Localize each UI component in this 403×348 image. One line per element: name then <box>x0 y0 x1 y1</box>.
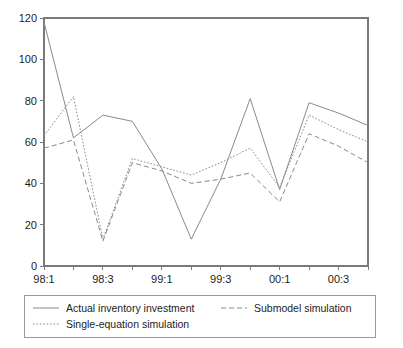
y-tick-label: 100 <box>19 53 37 65</box>
y-tick-label: 120 <box>19 12 37 24</box>
x-tick-label: 00:1 <box>269 273 290 285</box>
legend-label-single-equation: Single-equation simulation <box>66 318 189 330</box>
chart-legend: Actual inventory investment Submodel sim… <box>24 295 376 338</box>
legend-swatch-solid-icon <box>33 303 59 313</box>
inventory-investment-figure: 02040608010012098:198:399:199:300:100:3 … <box>0 0 403 348</box>
x-tick-label: 98:3 <box>92 273 113 285</box>
x-tick-label: 99:3 <box>210 273 231 285</box>
x-tick-label: 99:1 <box>151 273 172 285</box>
y-tick-label: 60 <box>25 136 37 148</box>
legend-entries: Actual inventory investment Submodel sim… <box>25 296 375 337</box>
legend-item-single-equation: Single-equation simulation <box>33 318 189 330</box>
y-tick-label: 40 <box>25 177 37 189</box>
y-tick-label: 80 <box>25 95 37 107</box>
chart-plot-area: 02040608010012098:198:399:199:300:100:3 <box>0 0 403 290</box>
y-tick-label: 20 <box>25 219 37 231</box>
legend-swatch-dashed-icon <box>221 303 247 313</box>
plot-frame <box>44 18 368 266</box>
line-chart-svg: 02040608010012098:198:399:199:300:100:3 <box>0 0 403 290</box>
series-line-single-equation-simulation <box>44 97 368 240</box>
legend-swatch-dotted-icon <box>33 319 59 329</box>
legend-item-actual: Actual inventory investment <box>33 302 194 314</box>
legend-label-submodel: Submodel simulation <box>254 302 351 314</box>
legend-item-submodel: Submodel simulation <box>221 302 351 314</box>
legend-label-actual: Actual inventory investment <box>66 302 194 314</box>
y-tick-label: 0 <box>31 260 37 272</box>
x-tick-label: 00:3 <box>328 273 349 285</box>
x-tick-label: 98:1 <box>33 273 54 285</box>
series-line-submodel-simulation <box>44 134 368 241</box>
